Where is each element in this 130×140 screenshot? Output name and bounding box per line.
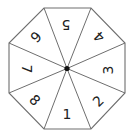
section-label-1: 1: [63, 106, 72, 122]
section-label-7: 7: [19, 65, 35, 74]
section-label-5: 5: [62, 17, 71, 33]
section-label-3: 3: [100, 66, 116, 75]
center-hub-dot: [64, 66, 69, 71]
octagon-spinner: 5 4 3 2 1 8 7 6: [0, 0, 130, 140]
